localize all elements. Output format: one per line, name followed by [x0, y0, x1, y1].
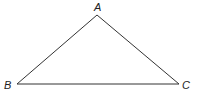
triangle-svg: A B C	[0, 0, 197, 94]
vertex-label-a: A	[93, 1, 101, 13]
vertex-label-c: C	[182, 79, 190, 91]
triangle-abc	[17, 15, 179, 84]
triangle-diagram: A B C	[0, 0, 197, 94]
vertex-label-b: B	[4, 79, 11, 91]
